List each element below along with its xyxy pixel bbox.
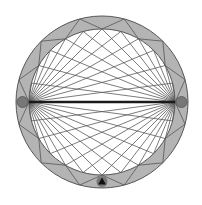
chord-line [39,102,175,139]
chord-line [29,102,154,154]
chord-line [29,66,165,103]
anchor-dot-icon [176,97,187,108]
chord-line [50,50,175,102]
chord-line [50,102,175,154]
chord-line [39,66,175,103]
anchor-dot-icon [17,97,28,108]
chord-line [29,50,154,102]
chord-diagram [0,0,202,205]
bottom-marker [97,176,108,187]
chord-line [29,102,165,139]
